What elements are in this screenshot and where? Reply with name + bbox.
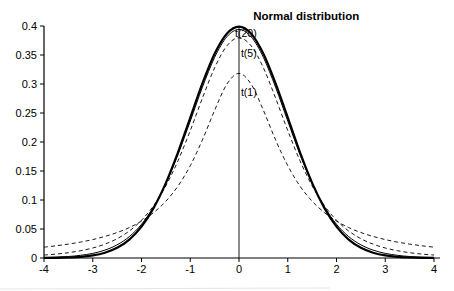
distribution-chart: -4-3-2-10123400.050.10.150.20.250.30.350…	[0, 0, 454, 291]
x-tick-label: 4	[431, 263, 437, 275]
chart-title: Normal distribution	[253, 10, 359, 22]
y-tick-label: 0.05	[16, 223, 37, 235]
x-tick-label: 2	[333, 263, 339, 275]
y-tick-label: 0.35	[16, 49, 37, 61]
distribution-figure: -4-3-2-10123400.050.10.150.20.250.30.350…	[0, 0, 454, 291]
curve-label-t-20: t(20)	[235, 27, 257, 39]
y-tick-label: 0.15	[16, 165, 37, 177]
curve-label-t-1: t(1)	[241, 86, 257, 98]
x-tick-label: -3	[88, 263, 98, 275]
y-tick-label: 0.3	[22, 78, 37, 90]
x-tick-label: 3	[382, 263, 388, 275]
y-tick-label: 0.4	[22, 20, 37, 32]
x-tick-label: -4	[39, 263, 49, 275]
x-tick-label: -2	[137, 263, 147, 275]
curve-label-t-5: t(5)	[241, 47, 257, 59]
x-tick-label: 1	[285, 263, 291, 275]
y-tick-label: 0.25	[16, 107, 37, 119]
y-tick-label: 0	[31, 252, 37, 264]
scan-artifact	[0, 288, 330, 289]
y-tick-label: 0.2	[22, 136, 37, 148]
x-tick-label: 0	[236, 263, 242, 275]
y-tick-label: 0.1	[22, 194, 37, 206]
x-tick-label: -1	[185, 263, 195, 275]
